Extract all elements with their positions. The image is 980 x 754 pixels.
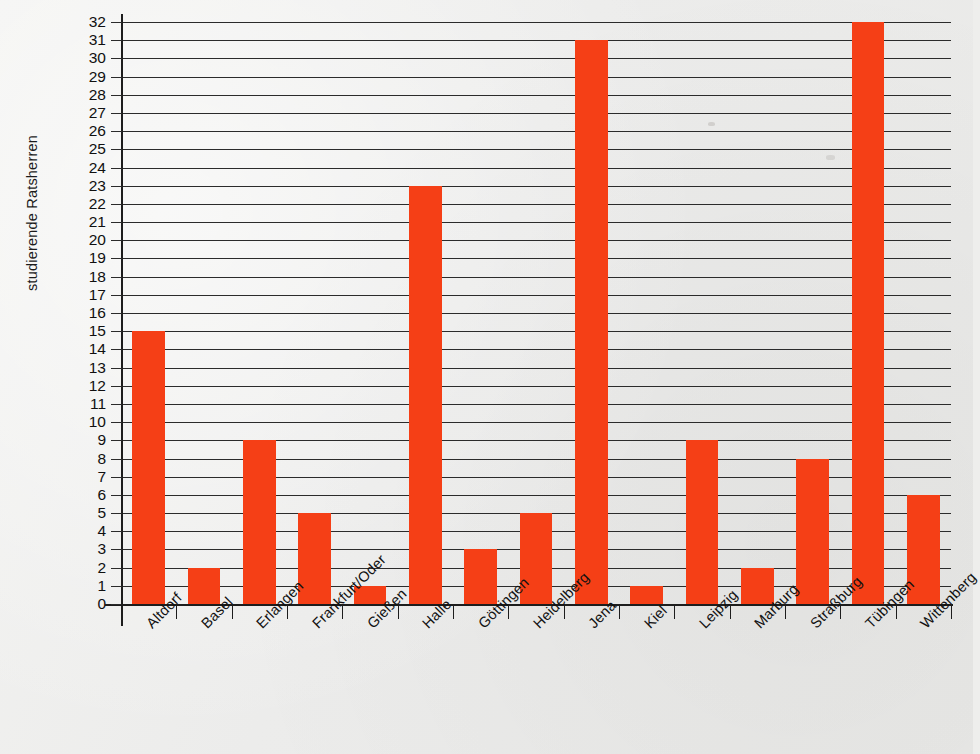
y-tick-mark	[111, 295, 122, 296]
bar	[132, 331, 164, 604]
x-tick-mark	[785, 604, 786, 619]
x-tick-mark	[398, 604, 399, 619]
bars-series	[121, 22, 951, 604]
bar	[188, 568, 220, 604]
y-tick-mark	[111, 586, 122, 587]
scan-speckle	[826, 155, 835, 160]
y-tick-label: 32	[72, 14, 106, 30]
y-tick-mark	[111, 313, 122, 314]
x-tick-mark	[951, 604, 952, 619]
y-tick-label: 10	[72, 414, 106, 430]
bar	[243, 440, 275, 604]
y-tick-label: 26	[72, 123, 106, 139]
y-tick-label: 23	[72, 178, 106, 194]
y-tick-mark	[111, 477, 122, 478]
x-tick-mark	[176, 604, 177, 619]
bar	[741, 568, 773, 604]
y-tick-mark	[111, 22, 122, 23]
y-tick-mark	[111, 58, 122, 59]
y-tick-label: 2	[72, 560, 106, 576]
y-tick-label: 11	[72, 396, 106, 412]
y-tick-label: 5	[72, 505, 106, 521]
y-tick-label: 7	[72, 469, 106, 485]
x-tick-mark	[508, 604, 509, 619]
y-tick-label: 0	[72, 596, 106, 612]
y-tick-label: 15	[72, 323, 106, 339]
y-tick-mark	[111, 113, 122, 114]
x-tick-mark	[342, 604, 343, 619]
y-tick-mark	[111, 404, 122, 405]
x-tick-mark	[287, 604, 288, 619]
y-tick-label: 27	[72, 105, 106, 121]
y-tick-mark	[111, 513, 122, 514]
y-tick-mark	[111, 222, 122, 223]
bar	[852, 22, 884, 604]
x-tick-label: Kiel	[641, 602, 670, 631]
y-tick-label: 21	[72, 214, 106, 230]
bar	[575, 40, 607, 604]
y-tick-mark	[111, 531, 122, 532]
y-tick-mark	[111, 368, 122, 369]
y-tick-label: 19	[72, 250, 106, 266]
y-tick-label: 9	[72, 432, 106, 448]
y-tick-label: 30	[72, 50, 106, 66]
y-tick-label: 22	[72, 196, 106, 212]
y-tick-mark	[111, 149, 122, 150]
y-tick-mark	[111, 459, 122, 460]
y-tick-mark	[111, 77, 122, 78]
y-tick-mark	[111, 186, 122, 187]
y-tick-label: 14	[72, 341, 106, 357]
y-tick-mark	[111, 277, 122, 278]
bar	[796, 459, 828, 605]
x-tick-mark	[730, 604, 731, 619]
bar	[409, 186, 441, 604]
y-tick-label: 24	[72, 160, 106, 176]
y-tick-mark	[111, 331, 122, 332]
y-tick-mark	[111, 386, 122, 387]
bar	[686, 440, 718, 604]
x-tick-mark	[232, 604, 233, 619]
y-tick-mark	[111, 40, 122, 41]
x-tick-mark	[453, 604, 454, 619]
y-tick-mark	[111, 131, 122, 132]
x-tick-mark	[619, 604, 620, 619]
bar	[464, 549, 496, 604]
y-axis-tick-labels: 3231302928272625242322212019181716151413…	[60, 0, 106, 754]
y-tick-label: 20	[72, 232, 106, 248]
y-tick-mark	[111, 349, 122, 350]
y-tick-label: 25	[72, 141, 106, 157]
y-tick-mark	[111, 549, 122, 550]
y-axis-title: studierende Ratsherren	[24, 103, 40, 323]
y-tick-mark	[111, 258, 122, 259]
x-tick-mark	[121, 604, 122, 619]
y-tick-label: 4	[72, 523, 106, 539]
y-tick-mark	[111, 95, 122, 96]
x-tick-mark	[674, 604, 675, 619]
y-tick-mark	[111, 168, 122, 169]
y-tick-mark	[111, 204, 122, 205]
y-tick-label: 1	[72, 578, 106, 594]
y-tick-label: 3	[72, 541, 106, 557]
y-tick-label: 13	[72, 360, 106, 376]
y-tick-mark	[111, 495, 122, 496]
y-tick-mark	[111, 422, 122, 423]
y-tick-mark	[111, 568, 122, 569]
y-tick-label: 28	[72, 87, 106, 103]
y-tick-label: 29	[72, 69, 106, 85]
y-tick-label: 12	[72, 378, 106, 394]
y-tick-label: 6	[72, 487, 106, 503]
x-tick-mark	[896, 604, 897, 619]
x-tick-mark	[564, 604, 565, 619]
y-tick-label: 17	[72, 287, 106, 303]
x-tick-mark	[840, 604, 841, 619]
y-tick-mark	[111, 440, 122, 441]
y-tick-label: 18	[72, 269, 106, 285]
x-axis-tick-labels: AltdorfBaselErlangenFrankfurt/OderGießen…	[121, 620, 951, 750]
scan-speckle	[708, 122, 715, 126]
y-tick-label: 8	[72, 451, 106, 467]
y-tick-mark	[111, 240, 122, 241]
y-tick-label: 16	[72, 305, 106, 321]
y-tick-label: 31	[72, 32, 106, 48]
